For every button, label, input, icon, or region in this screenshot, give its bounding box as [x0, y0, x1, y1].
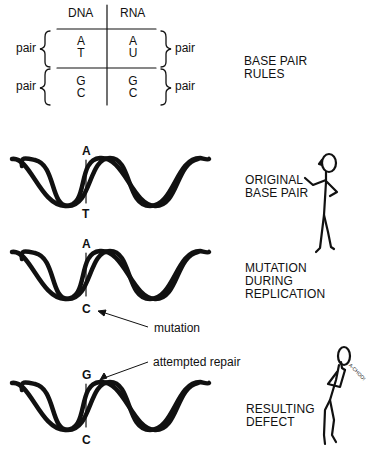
- dna-helix-mutation: [12, 251, 209, 299]
- helix2-top-base: A: [82, 237, 91, 251]
- right-brace-2: [161, 69, 171, 105]
- dna-helix-original: [12, 158, 209, 206]
- stick-figure-sneezing: [324, 347, 350, 444]
- pair-label-right-1: pair: [175, 42, 195, 55]
- title-line: RULES: [244, 68, 307, 81]
- mutation-arrow: [102, 312, 148, 327]
- dna-helix-defect: [12, 382, 209, 430]
- right-brace-1: [161, 31, 171, 67]
- rna-base-u: U: [118, 47, 148, 59]
- diagram-canvas: [0, 0, 384, 458]
- left-brace-1: [40, 31, 50, 67]
- pair-label-left-2: pair: [16, 80, 36, 93]
- rna-base-c: C: [118, 87, 148, 99]
- attempted-repair-annotation: attempted repair: [153, 355, 240, 369]
- title-original-base-pair: ORIGINAL BASE PAIR: [245, 174, 308, 200]
- mutation-annotation: mutation: [154, 321, 200, 335]
- title-base-pair-rules: BASE PAIR RULES: [244, 55, 307, 81]
- stick-figure-pointing: [305, 154, 337, 252]
- helix1-bottom-base: T: [82, 207, 89, 221]
- helix3-top-base: G: [82, 368, 91, 382]
- helix2-bottom-base: C: [82, 302, 91, 316]
- helix1-top-base: A: [82, 144, 91, 158]
- repair-arrow: [104, 362, 148, 378]
- dna-base-t: T: [66, 47, 96, 59]
- table-header-rna: RNA: [120, 6, 145, 20]
- helix3-bottom-base: C: [82, 433, 91, 447]
- pair-label-right-2: pair: [175, 80, 195, 93]
- title-resulting-defect: RESULTING DEFECT: [246, 403, 315, 429]
- left-brace-2: [40, 69, 50, 105]
- table-header-dna: DNA: [68, 6, 93, 20]
- title-line: REPLICATION: [245, 288, 325, 301]
- title-mutation-during-replication: MUTATION DURING REPLICATION: [245, 262, 325, 301]
- title-line: DEFECT: [246, 416, 315, 429]
- pair-label-left-1: pair: [16, 42, 36, 55]
- title-line: BASE PAIR: [245, 187, 308, 200]
- dna-base-c: C: [66, 87, 96, 99]
